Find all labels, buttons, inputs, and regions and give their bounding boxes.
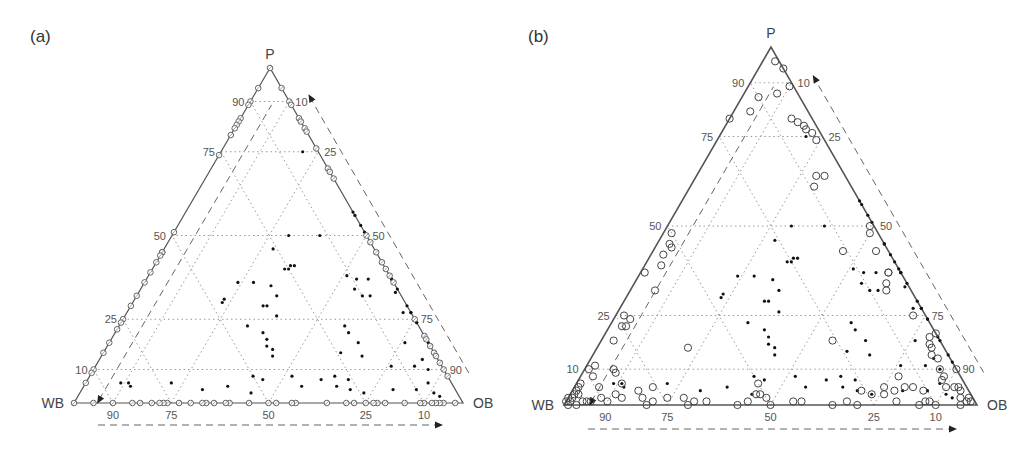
data-point-dot (265, 304, 268, 307)
data-point-dot (620, 382, 623, 385)
data-point-open-circle (622, 323, 629, 330)
data-point-dot (287, 267, 290, 270)
data-point-open-circle (790, 398, 797, 405)
gridline-wb (123, 319, 171, 403)
data-point-open-circle (895, 373, 902, 380)
data-point-dot (415, 388, 418, 391)
data-point-dot (794, 375, 797, 378)
data-point-open-circle (744, 398, 751, 405)
ternary-panel-a: 909090757575505050252525101010PWBOB(a) (30, 27, 493, 429)
axis-direction-lines (588, 79, 984, 429)
data-point-dot (899, 271, 902, 274)
data-point-dot (938, 368, 941, 371)
data-point-dot (767, 335, 770, 338)
data-point-dot (409, 311, 412, 314)
ob-tick-label: 75 (932, 310, 944, 322)
data-point-dot (926, 317, 929, 320)
data-point-dot (347, 331, 350, 334)
wb-tick-label: 50 (262, 409, 274, 421)
data-point-dot (249, 391, 252, 394)
data-point-dot (839, 375, 842, 378)
data-point-dot (771, 278, 774, 281)
data-point-dot (353, 288, 356, 291)
data-point-dot (852, 267, 855, 270)
data-point-open-circle (839, 247, 846, 254)
data-point-open-circle (813, 172, 820, 179)
data-point-dot (823, 224, 826, 227)
data-point-dot (438, 395, 441, 398)
data-point-dot (860, 203, 863, 206)
gridlines (585, 83, 957, 405)
data-point-dot (763, 300, 766, 303)
data-point-dot (405, 304, 408, 307)
data-point-dot (355, 277, 358, 280)
data-point-dot (777, 310, 780, 313)
vertex-label-ob: OB (473, 395, 493, 411)
gridline-ob (113, 102, 289, 404)
data-point-open-circle (649, 384, 656, 391)
data-point-open-circle (589, 373, 596, 380)
data-point-open-circle (703, 398, 710, 405)
data-point-dot (753, 275, 756, 278)
data-point-open-circle (651, 287, 658, 294)
data-point-open-circle (772, 58, 779, 65)
data-point-dot (391, 388, 394, 391)
ob-tick-label: 90 (450, 364, 462, 376)
data-point-dot (845, 350, 848, 353)
data-point-open-circle (635, 387, 642, 394)
data-point-open-circle (829, 337, 836, 344)
data-point-dot (402, 311, 405, 314)
data-point-dot (390, 365, 393, 368)
data-point-dot (951, 396, 954, 399)
ob-tick-label: 25 (324, 146, 336, 158)
p-tick-label: 50 (649, 220, 661, 232)
data-point-open-circle (957, 394, 964, 401)
p-arrow-icon (813, 75, 820, 84)
data-point-dot (271, 355, 274, 358)
data-point-open-circle (934, 355, 941, 362)
data-point-dot (951, 360, 954, 363)
data-point-dot (201, 388, 204, 391)
data-point-dot (767, 343, 770, 346)
data-point-dot (773, 353, 776, 356)
wb-tick-label: 90 (107, 409, 119, 421)
data-point-dot (804, 135, 807, 138)
data-point-dot (912, 307, 915, 310)
data-point-open-circle (872, 247, 879, 254)
data-point-dot (777, 289, 780, 292)
data-point-dot (394, 291, 397, 294)
wb-tick-label: 10 (930, 411, 942, 423)
data-point-open-circle (680, 394, 687, 401)
ternary-panel-b: 909090757575505050252525101010PWBOB(b) (528, 25, 1007, 433)
series-interior (119, 150, 441, 398)
gridline-ob (936, 369, 957, 405)
data-point-dot (864, 339, 867, 342)
ob-tick-label: 50 (373, 230, 385, 242)
ternary-triangle (564, 47, 977, 405)
vertex-label-ob: OB (987, 397, 1007, 413)
data-point-dot (301, 150, 304, 153)
data-point-open-circle (821, 172, 828, 179)
data-point-open-circle (579, 398, 586, 405)
data-point-dot (335, 385, 338, 388)
vertex-label-wb: WB (41, 395, 64, 411)
data-point-dot (290, 375, 293, 378)
data-point-dot (396, 288, 399, 291)
wb-direction-line (591, 87, 773, 402)
data-point-open-circle (893, 398, 900, 405)
data-point-dot (413, 365, 416, 368)
data-point-dot (293, 264, 296, 267)
data-point-dot (883, 242, 886, 245)
data-point-dot (899, 364, 902, 367)
data-point-dot (854, 378, 857, 381)
data-point-dot (345, 274, 348, 277)
data-point-open-circle (583, 398, 590, 405)
p-direction-line (815, 79, 984, 373)
data-point-dot (347, 378, 350, 381)
data-point-open-circle (786, 83, 793, 90)
data-point-dot (221, 301, 224, 304)
wb-tick-label: 75 (165, 409, 177, 421)
data-point-open-circle (755, 94, 762, 101)
data-point-dot (773, 346, 776, 349)
data-point-open-circle (909, 384, 916, 391)
